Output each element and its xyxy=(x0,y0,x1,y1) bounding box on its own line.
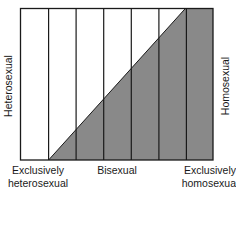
bottom-label-exclusively-heterosexual: Exclusively heterosexual xyxy=(8,164,68,190)
bottom-label-line1: Bisexual xyxy=(97,164,137,177)
bottom-label-line2: homosexual xyxy=(182,177,236,190)
right-axis-label: Homosexual xyxy=(220,57,231,115)
left-axis-label: Heterosexual xyxy=(3,55,14,117)
bottom-label-bisexual: Bisexual xyxy=(97,164,137,177)
bottom-label-line1: Exclusively xyxy=(8,164,68,177)
bottom-label-line2: heterosexual xyxy=(8,177,68,190)
bottom-label-line1: Exclusively xyxy=(182,164,236,177)
bottom-label-exclusively-homosexual: Exclusively homosexual xyxy=(182,164,236,190)
